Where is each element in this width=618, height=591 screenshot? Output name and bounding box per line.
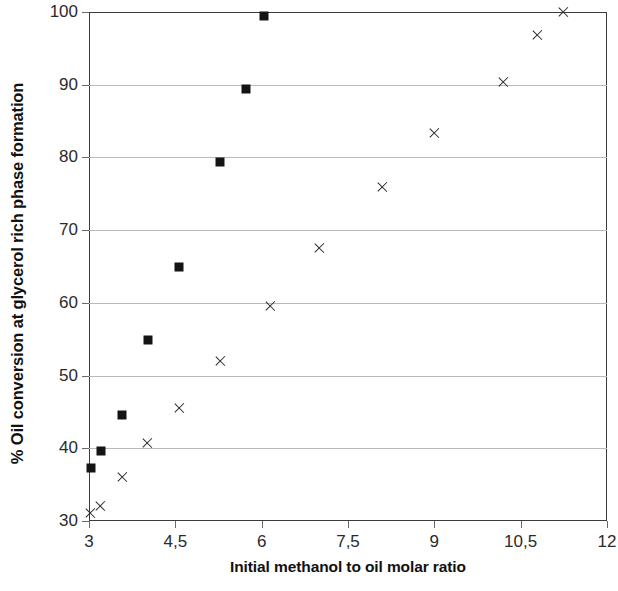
x-tick-label-4: 9 — [430, 532, 439, 552]
x-axis-title: Initial methanol to oil molar ratio — [89, 558, 607, 576]
y-tick-mark-40 — [82, 448, 89, 449]
plot-area: 30405060708090100 34,567,5910,512 — [89, 12, 607, 521]
y-tick-label-90: 90 — [59, 75, 78, 95]
y-axis-title: % Oil conversion at glycerol rich phase … — [8, 14, 27, 534]
gridline-y-60 — [89, 303, 607, 304]
y-tick-mark-70 — [82, 230, 89, 231]
plot-frame — [89, 12, 607, 521]
y-tick-mark-60 — [82, 303, 89, 304]
x-tick-label-6: 12 — [598, 532, 617, 552]
x-tick-mark-1 — [175, 521, 176, 528]
y-tick-label-100: 100 — [50, 2, 78, 22]
x-tick-mark-4 — [434, 521, 435, 528]
x-tick-mark-6 — [607, 521, 608, 528]
x-tick-label-0: 3 — [84, 532, 93, 552]
y-tick-label-80: 80 — [59, 147, 78, 167]
x-tick-label-3: 7,5 — [336, 532, 360, 552]
x-tick-mark-5 — [521, 521, 522, 528]
y-tick-label-70: 70 — [59, 220, 78, 240]
scatter-chart-figure: % Oil conversion at glycerol rich phase … — [0, 0, 618, 591]
x-tick-mark-2 — [262, 521, 263, 528]
y-tick-mark-90 — [82, 85, 89, 86]
x-tick-label-2: 6 — [257, 532, 266, 552]
y-tick-label-30: 30 — [59, 511, 78, 531]
x-tick-label-1: 4,5 — [164, 532, 188, 552]
x-tick-mark-3 — [348, 521, 349, 528]
y-tick-mark-30 — [82, 521, 89, 522]
y-tick-label-60: 60 — [59, 293, 78, 313]
gridline-y-50 — [89, 376, 607, 377]
y-tick-label-50: 50 — [59, 366, 78, 386]
gridline-y-80 — [89, 157, 607, 158]
gridline-y-70 — [89, 230, 607, 231]
y-tick-mark-100 — [82, 12, 89, 13]
x-tick-mark-0 — [89, 521, 90, 528]
gridline-y-40 — [89, 448, 607, 449]
y-tick-mark-50 — [82, 376, 89, 377]
x-tick-label-5: 10,5 — [504, 532, 537, 552]
gridline-y-90 — [89, 85, 607, 86]
y-tick-label-40: 40 — [59, 438, 78, 458]
y-tick-mark-80 — [82, 157, 89, 158]
